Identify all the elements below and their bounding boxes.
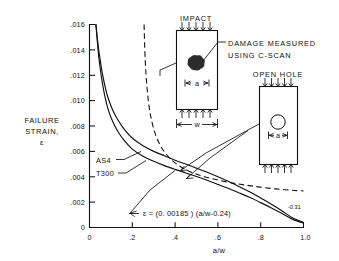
y-tick-label-0: 0 bbox=[81, 223, 85, 232]
open-hole-dim-a: a bbox=[269, 131, 288, 140]
curve-label-t300: T300 bbox=[96, 169, 114, 178]
damage-callout-leader bbox=[203, 42, 226, 61]
x-tick-label-0: 0 bbox=[87, 233, 91, 242]
y-tick-label-014: .014 bbox=[70, 46, 85, 55]
open-hole-leaders bbox=[181, 124, 260, 179]
y-tick-label-010: .010 bbox=[70, 96, 85, 105]
y-tick-label-012: .012 bbox=[70, 71, 85, 80]
leader-t300 bbox=[118, 161, 146, 174]
curve-annotations: AS4 T300 bbox=[96, 152, 146, 179]
impact-specimen-diagram: IMPACT a bbox=[160, 14, 218, 129]
y-tick-label-008: .008 bbox=[70, 122, 85, 131]
x-tick-label-04: .4 bbox=[172, 233, 178, 242]
y-axis-title-line1: FAILURE bbox=[24, 116, 59, 125]
equation-text: ε = (0. 00185 ) (a/w-0.24) bbox=[143, 209, 231, 218]
y-tick-label-004: .004 bbox=[70, 173, 85, 182]
impact-leader bbox=[160, 63, 176, 76]
open-hole-top-load-arrows bbox=[263, 78, 293, 87]
damage-callout-line2: USING C-SCAN bbox=[228, 51, 291, 60]
x-tickmarks bbox=[90, 222, 304, 227]
impact-dim-a-label: a bbox=[195, 79, 199, 88]
impact-top-load-arrows bbox=[180, 22, 212, 31]
impact-dim-a: a bbox=[185, 79, 209, 88]
equation-exponent: -0.31 bbox=[288, 204, 301, 210]
impact-damage-blob bbox=[188, 55, 205, 70]
x-tick-label-02: .2 bbox=[129, 233, 135, 242]
impact-title: IMPACT bbox=[180, 14, 212, 23]
open-hole-leader-2 bbox=[187, 131, 249, 179]
equation-leader bbox=[130, 171, 175, 214]
y-axis-title-line3: ε bbox=[40, 138, 44, 147]
x-tick-label-06: .6 bbox=[215, 233, 221, 242]
y-axis-title-line2: STRAIN, bbox=[25, 127, 58, 136]
y-tick-label-016: .016 bbox=[70, 20, 85, 29]
open-hole-dim-a-label: a bbox=[276, 131, 280, 140]
impact-bottom-load-arrows bbox=[180, 109, 212, 118]
y-tickmarks bbox=[90, 25, 96, 228]
curve-label-as4: AS4 bbox=[96, 156, 111, 165]
x-tick-label-08: .8 bbox=[257, 233, 263, 242]
y-tick-label-002: .002 bbox=[70, 198, 85, 207]
x-axis-title: a/w bbox=[213, 246, 226, 255]
x-tick-label-10: 1.0 bbox=[300, 233, 311, 242]
damage-callout-line1: DAMAGE MEASURED bbox=[228, 39, 316, 48]
impact-dim-w: w bbox=[177, 119, 218, 129]
impact-dim-w-label: w bbox=[193, 120, 200, 129]
y-tick-label-006: .006 bbox=[70, 147, 85, 156]
failure-strain-chart: 0 .002 .004 .006 .008 .010 .012 .014 .01… bbox=[0, 0, 339, 261]
damage-callout: DAMAGE MEASURED USING C-SCAN bbox=[203, 39, 316, 61]
figure-container: 0 .002 .004 .006 .008 .010 .012 .014 .01… bbox=[0, 0, 339, 261]
open-hole-bottom-load-arrows bbox=[263, 164, 293, 173]
open-hole-title: OPEN HOLE bbox=[253, 70, 303, 79]
equation-annotation: ε = (0. 00185 ) (a/w-0.24) -0.31 bbox=[129, 171, 301, 219]
open-hole-circle bbox=[271, 115, 285, 129]
